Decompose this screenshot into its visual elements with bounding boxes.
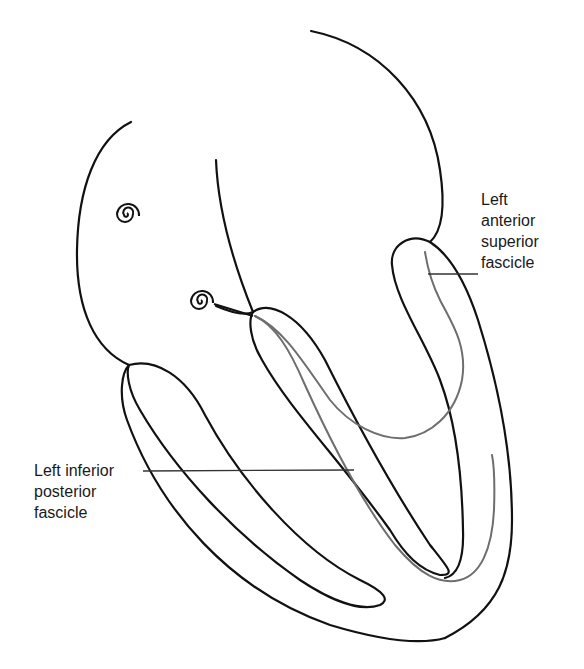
left-ventricle-wall [392, 239, 463, 578]
interatrial-septum [216, 160, 253, 312]
left-ventricle-cavity [250, 308, 448, 575]
right-atrium-wall [77, 122, 131, 365]
lipf-leader-line [143, 470, 354, 471]
heart-conduction-diagram [0, 0, 584, 669]
outer-ventricular-wall [122, 365, 445, 641]
label-left-inferior-posterior-fascicle: Left inferior posterior fascicle [34, 460, 114, 523]
label-left-anterior-superior-fascicle: Left anterior superior fascicle [481, 189, 539, 273]
left-atrium-wall [311, 31, 443, 242]
left-ventricle-outer-wall [430, 242, 512, 638]
left-anterior-superior-fascicle [255, 252, 463, 438]
atrioventricular-node-spiral-icon [191, 291, 253, 316]
sinoatrial-node-spiral-icon [117, 204, 139, 222]
left-inferior-posterior-fascicle [255, 316, 494, 581]
